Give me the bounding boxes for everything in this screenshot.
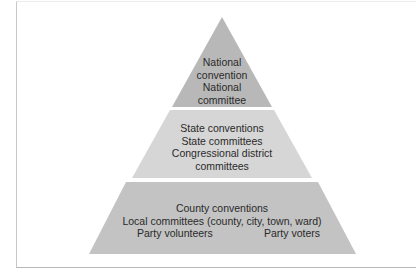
tier-top-line: National: [172, 56, 272, 69]
party-volunteers-label: Party volunteers: [137, 227, 213, 240]
tier-middle-line: State committees: [152, 135, 292, 148]
tier-middle-line: committees: [152, 160, 292, 173]
tier-bottom-line: Local committees (county, city, town, wa…: [112, 215, 332, 228]
tier-middle-line: State conventions: [152, 122, 292, 135]
tier-top-line: convention: [172, 69, 272, 82]
tier-middle-line: Congressional district: [152, 147, 292, 160]
tier-bottom-split-row: Party volunteers Party voters: [112, 227, 332, 240]
tier-middle-text: State conventions State committees Congr…: [152, 122, 292, 172]
party-voters-label: Party voters: [264, 227, 320, 240]
tier-top-line: National: [172, 81, 272, 94]
tier-top-text: National convention National committee: [172, 56, 272, 106]
tier-bottom-line: County conventions: [112, 202, 332, 215]
tier-bottom-text: County conventions Local committees (cou…: [112, 202, 332, 240]
tier-top-line: committee: [172, 94, 272, 107]
